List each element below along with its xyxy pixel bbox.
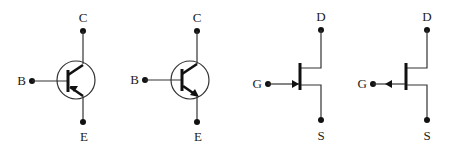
source-lead (407, 85, 427, 120)
source-terminal-dot (424, 117, 430, 123)
gate-arrow-outward-icon (385, 80, 392, 88)
gate-label: G (253, 76, 262, 91)
gate-label: G (358, 76, 367, 91)
source-label: S (317, 128, 324, 143)
collector-label: C (79, 10, 88, 25)
source-lead (301, 85, 321, 120)
p-channel-jfet-symbol: D S G (358, 9, 432, 143)
base-label: B (130, 72, 139, 87)
collector-label: C (193, 10, 202, 25)
source-terminal-dot (318, 117, 324, 123)
drain-lead (301, 30, 321, 68)
emitter-label: E (80, 129, 88, 144)
transistor-body-circle (57, 61, 95, 99)
source-label: S (423, 128, 430, 143)
drain-label: D (316, 9, 325, 24)
n-channel-jfet-symbol: D S G (253, 9, 326, 143)
npn-transistor-symbol: C B E (130, 10, 209, 144)
collector-junction-line (68, 65, 83, 75)
base-label: B (17, 73, 26, 88)
pnp-transistor-symbol: C B E (17, 10, 95, 144)
drain-lead (407, 30, 427, 68)
emitter-terminal-dot (194, 119, 200, 125)
collector-junction-line (182, 64, 197, 74)
gate-arrow-inward-icon (292, 80, 299, 88)
emitter-terminal-dot (80, 119, 86, 125)
emitter-label: E (194, 129, 202, 144)
drain-label: D (422, 9, 431, 24)
transistor-symbols-diagram: C B E C B E D S (0, 0, 449, 149)
